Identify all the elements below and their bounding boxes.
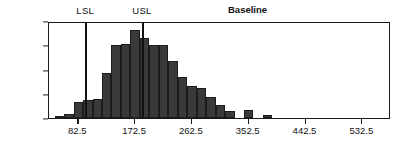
histogram-figure: Baseline LSLUSL 0100200300400 82.5172.52… [0,0,407,150]
histogram-bar [111,45,120,118]
plot-area [48,22,390,119]
histogram-bar [225,111,234,118]
histogram-bar [102,73,111,118]
y-tick-mark [43,70,48,71]
histogram-bar [121,44,130,118]
x-tick-mark [191,119,192,124]
x-tick-label: 172.5 [122,125,146,136]
histogram-bar [64,114,73,118]
x-tick-mark [134,119,135,124]
histogram-bar [263,115,272,118]
x-tick-label: 532.5 [349,125,373,136]
spec-limit-label-usl: USL [132,5,151,16]
histogram-bar [55,116,64,118]
x-tick-label: 352.5 [236,125,260,136]
histogram-bar [244,110,253,118]
x-tick-mark [361,119,362,124]
histogram-bar [93,99,102,118]
histogram-bar [159,45,168,118]
x-tick-label: 82.5 [68,125,87,136]
x-tick-label: 442.5 [293,125,317,136]
histogram-bar [206,97,215,118]
x-tick-mark [248,119,249,124]
chart-title: Baseline [228,4,267,15]
histogram-bar [130,30,139,119]
spec-limit-line-usl [142,22,144,119]
y-tick-mark [43,46,48,47]
y-tick-mark [43,118,48,119]
histogram-bar [168,61,177,118]
histogram-bar [149,45,158,118]
histogram-bar [187,86,196,118]
histogram-bar [74,102,83,118]
y-tick-mark [43,21,48,22]
y-tick-mark [43,94,48,95]
x-tick-mark [77,119,78,124]
spec-limit-label-lsl: LSL [76,5,94,16]
histogram-bar [216,105,225,118]
x-tick-mark [305,119,306,124]
x-tick-label: 262.5 [179,125,203,136]
histogram-bars [49,23,389,118]
spec-limit-line-lsl [85,22,87,119]
histogram-bar [197,88,206,118]
histogram-bar [178,77,187,118]
